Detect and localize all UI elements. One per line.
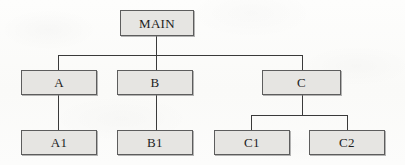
edge-c-stem: [302, 95, 303, 115]
edge-main-stem: [156, 36, 157, 55]
node-a1[interactable]: A1: [21, 130, 97, 155]
node-b[interactable]: B: [117, 70, 193, 95]
edge-c-bus: [251, 115, 347, 116]
edge-drop-c: [302, 55, 303, 70]
node-main[interactable]: MAIN: [120, 10, 194, 36]
node-b1[interactable]: B1: [117, 130, 193, 155]
node-c2[interactable]: C2: [309, 130, 385, 155]
node-c2-label: C2: [339, 136, 355, 149]
edge-drop-c1: [251, 115, 252, 130]
edge-drop-c2: [347, 115, 348, 130]
node-c-label: C: [297, 76, 306, 89]
node-c[interactable]: C: [262, 70, 341, 95]
edge-drop-a: [58, 55, 59, 70]
tree-diagram-canvas: MAIN A B C A1 B1 C1 C2: [0, 0, 405, 165]
node-a1-label: A1: [51, 136, 68, 149]
node-a[interactable]: A: [21, 70, 97, 95]
edge-level1-bus: [58, 55, 303, 56]
node-c1-label: C1: [244, 136, 260, 149]
node-b-label: B: [151, 76, 160, 89]
edge-b-to-b1: [156, 95, 157, 130]
node-a-label: A: [54, 76, 64, 89]
node-b1-label: B1: [147, 136, 163, 149]
node-c1[interactable]: C1: [214, 130, 290, 155]
edge-a-to-a1: [58, 95, 59, 130]
node-main-label: MAIN: [139, 16, 175, 29]
edge-drop-b: [156, 55, 157, 70]
